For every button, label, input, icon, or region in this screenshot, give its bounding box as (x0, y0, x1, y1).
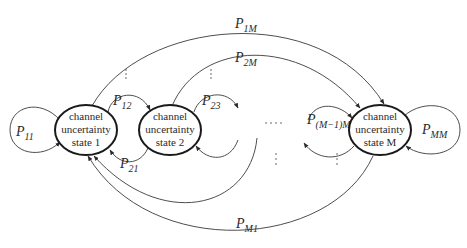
edge-p1M (92, 34, 384, 106)
state-1-line1: channel (69, 110, 103, 122)
state-2-line2: uncertainty (145, 123, 195, 135)
label-p1M: P1M (234, 16, 258, 34)
transition-p11: P11 (10, 107, 60, 152)
markov-chain-diagram: P11 P12 P21 P23 P1M P2M (0, 0, 467, 248)
state-M-line2: uncertainty (355, 123, 405, 135)
label-p21: P21 (119, 156, 139, 174)
state-2-line1: channel (153, 110, 187, 122)
label-pM1M: P(M−1)M (306, 112, 351, 131)
state-2: channel uncertainty state 2 (139, 105, 201, 155)
label-pM1: PM1 (235, 216, 258, 234)
edge-p2M (172, 55, 360, 108)
state-M: channel uncertainty state M (349, 105, 411, 155)
state-M-line3: state M (364, 136, 397, 148)
transition-p23: P23 (194, 93, 238, 112)
edge-p21 (110, 148, 148, 162)
state-1: channel uncertainty state 1 (55, 105, 117, 155)
state-1-line3: state 1 (72, 136, 100, 148)
transition-pM1M: P(M−1)M (306, 106, 352, 131)
label-pMM: PMM (421, 122, 448, 140)
transition-pMM: PMM (404, 106, 460, 154)
transition-p2M: P2M (172, 50, 360, 108)
edge-pMM1 (304, 143, 354, 157)
state-1-line2: uncertainty (61, 123, 111, 135)
edge-p32 (196, 140, 238, 157)
transition-p12: P12 (108, 93, 150, 112)
label-p12: P12 (112, 93, 132, 111)
label-p11: P11 (15, 124, 34, 142)
state-M-line1: channel (363, 110, 397, 122)
transition-p21: P21 (110, 148, 148, 174)
label-p2M: P2M (234, 50, 258, 68)
state-2-line3: state 2 (156, 136, 184, 148)
